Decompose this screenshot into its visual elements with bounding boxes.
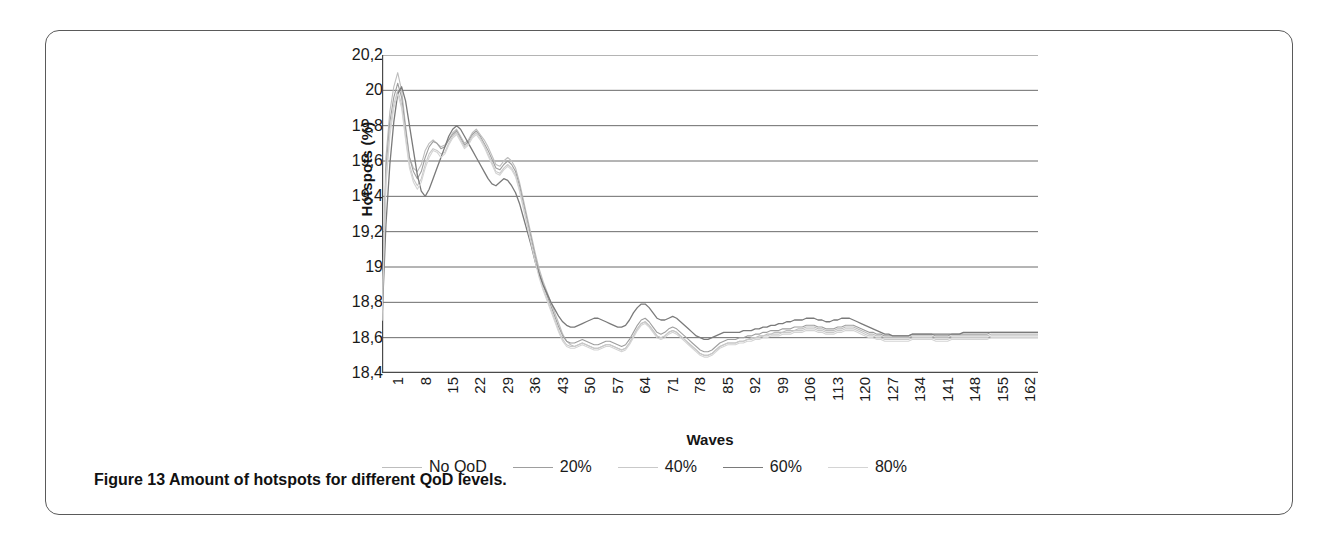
plot-svg — [382, 55, 1038, 373]
chart-region: Hotspots (%) 20,22019,819,619,419,21918,… — [46, 31, 1294, 451]
x-tick-label: 71 — [665, 377, 681, 433]
plot-area — [382, 55, 1038, 373]
legend-line-swatch — [382, 467, 422, 468]
y-axis-tick-labels: 20,22019,819,619,419,21918,818,618,4 — [311, 55, 383, 403]
figure-caption: Figure 13 Amount of hotspots for differe… — [94, 471, 1234, 489]
x-tick-label: 43 — [555, 377, 571, 433]
x-tick-label: 29 — [500, 377, 516, 433]
x-tick-label: 50 — [582, 377, 598, 433]
x-axis-title: Waves — [382, 431, 1038, 448]
x-tick-label: 64 — [637, 377, 653, 433]
x-tick-label: 36 — [527, 377, 543, 433]
x-tick-label: 106 — [802, 377, 818, 433]
legend-line-swatch — [618, 467, 658, 468]
legend-line-swatch — [828, 467, 868, 468]
x-tick-label: 85 — [720, 377, 736, 433]
y-tick-label: 19,6 — [311, 153, 383, 169]
x-tick-label: 141 — [940, 377, 956, 433]
series-line — [382, 83, 1038, 352]
x-tick-label: 120 — [857, 377, 873, 433]
x-tick-label: 155 — [995, 377, 1011, 433]
legend-line-swatch — [513, 467, 553, 468]
x-tick-label: 57 — [610, 377, 626, 433]
x-tick-label: 8 — [418, 377, 434, 433]
y-tick-label: 18,6 — [311, 330, 383, 346]
series-line — [382, 94, 1038, 357]
x-tick-label: 162 — [1022, 377, 1038, 433]
y-tick-label: 18,4 — [311, 365, 383, 381]
y-tick-label: 19,8 — [311, 118, 383, 134]
x-tick-label: 22 — [472, 377, 488, 433]
x-tick-label: 113 — [830, 377, 846, 433]
x-tick-label: 92 — [747, 377, 763, 433]
legend-line-swatch — [723, 467, 763, 468]
series-line — [382, 73, 1038, 356]
y-tick-label: 18,8 — [311, 294, 383, 310]
x-tick-label: 99 — [775, 377, 791, 433]
x-axis-tick-labels: 1815222936435057647178859299106113120127… — [382, 377, 1038, 433]
y-tick-label: 19 — [311, 259, 383, 275]
x-tick-label: 1 — [390, 377, 406, 433]
figure-caption-text: Amount of hotspots for different QoD lev… — [165, 471, 507, 488]
series-line — [382, 87, 1038, 340]
y-tick-label: 19,4 — [311, 188, 383, 204]
figure-caption-prefix: Figure 13 — [94, 471, 165, 488]
y-tick-label: 19,2 — [311, 224, 383, 240]
x-tick-label: 127 — [885, 377, 901, 433]
x-tick-label: 148 — [967, 377, 983, 433]
y-tick-label: 20,2 — [311, 47, 383, 63]
x-tick-label: 15 — [445, 377, 461, 433]
y-tick-label: 20 — [311, 82, 383, 98]
figure-frame: Hotspots (%) 20,22019,819,619,419,21918,… — [45, 30, 1293, 515]
x-tick-label: 78 — [692, 377, 708, 433]
x-tick-label: 134 — [912, 377, 928, 433]
series-line — [382, 90, 1038, 355]
